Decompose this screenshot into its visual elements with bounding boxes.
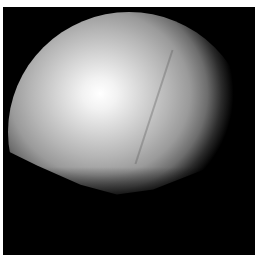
image-frame [3,7,255,255]
shadow-region [3,167,255,255]
